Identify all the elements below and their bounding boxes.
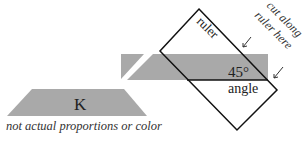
angle-value-label: 45°: [228, 64, 249, 80]
angle-label: angle: [228, 81, 258, 96]
cutting-diagram: K ruler 45° angle cut along ruler here n…: [0, 0, 303, 141]
ruler-label: ruler: [194, 14, 222, 42]
arrow-down-left-icon: [274, 67, 283, 78]
piece-k-label: K: [74, 95, 87, 114]
caption: not actual proportions or color: [6, 119, 162, 133]
arrow-down-left-icon: [243, 37, 251, 47]
